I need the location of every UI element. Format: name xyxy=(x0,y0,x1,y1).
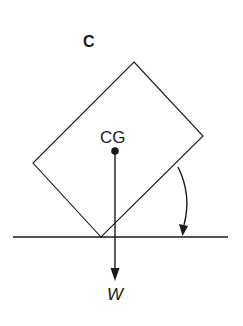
weight-arrowhead-icon xyxy=(111,268,120,281)
cg-label: CG xyxy=(100,128,126,147)
tipping-block-diagram: C CG W xyxy=(0,0,243,326)
rotation-arc xyxy=(178,167,187,225)
panel-label: C xyxy=(83,33,95,50)
rotation-arrowhead-icon xyxy=(179,224,188,236)
weight-label: W xyxy=(107,285,125,304)
